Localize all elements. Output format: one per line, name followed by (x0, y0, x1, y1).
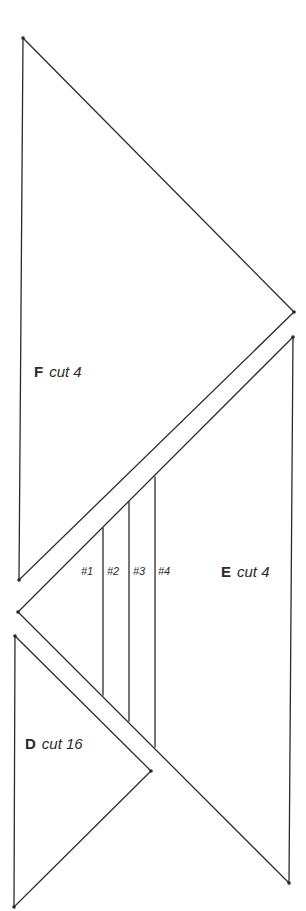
piece-e-section-lines (103, 477, 155, 747)
vertex-dot (21, 36, 25, 40)
pattern-diagram (0, 0, 306, 911)
piece-d-letter: D (25, 735, 36, 752)
piece-f-shape (19, 38, 294, 580)
piece-e-letter: E (221, 563, 231, 580)
piece-e-cut: cut 4 (237, 563, 270, 580)
section-1-label: #1 (81, 566, 93, 577)
vertex-dot (17, 578, 21, 582)
piece-f-cut: cut 4 (49, 363, 82, 380)
vertex-dot (287, 881, 291, 885)
vertex-dot (291, 335, 295, 339)
vertex-dot (13, 634, 17, 638)
section-4-label: #4 (158, 566, 170, 577)
piece-d-label: Dcut 16 (25, 736, 83, 752)
piece-f-letter: F (34, 363, 43, 380)
piece-d-cut: cut 16 (42, 735, 83, 752)
section-2-label: #2 (107, 566, 119, 577)
piece-e-label: Ecut 4 (221, 564, 270, 580)
vertex-dot (12, 905, 16, 909)
vertex-dot (16, 610, 20, 614)
piece-f-label: Fcut 4 (34, 364, 82, 380)
vertex-dots (12, 36, 296, 909)
vertex-dot (292, 310, 296, 314)
section-3-label: #3 (133, 566, 145, 577)
piece-e-shape (18, 337, 293, 883)
vertex-dot (149, 769, 153, 773)
